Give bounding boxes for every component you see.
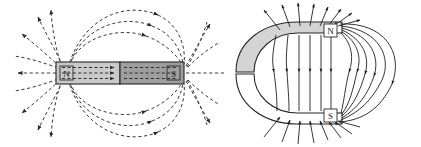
horseshoe-magnet-south-label: S xyxy=(328,111,333,121)
bar-field-lines-lower xyxy=(14,79,220,137)
magnetic-field-lines-figure: N S xyxy=(0,0,421,147)
bar-magnet-south-label: S xyxy=(171,69,176,79)
horseshoe-magnet-north-label: N xyxy=(327,26,334,36)
horseshoe-field-lines-interior xyxy=(273,35,331,111)
figure-canvas: N S xyxy=(0,0,421,147)
bar-magnet-panel: N S xyxy=(14,10,224,137)
bar-magnet-north-label: N xyxy=(63,69,70,79)
horseshoe-field-lines-fringe xyxy=(340,24,395,122)
bar-field-lines-upper xyxy=(14,10,220,68)
horseshoe-magnet-panel: N S xyxy=(236,3,395,144)
